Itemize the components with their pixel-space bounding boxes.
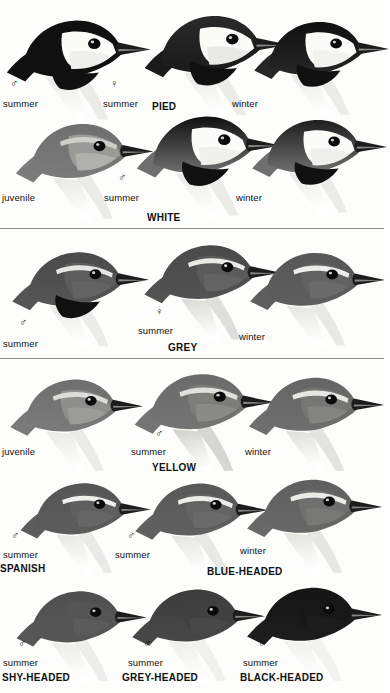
sex-symbol-yellow-male-summer: ♂ xyxy=(155,428,163,439)
bird-head-yellow-juvenile xyxy=(4,368,146,474)
sex-symbol-grey-female-summer: ♀ xyxy=(155,306,163,317)
caption-blueheaded-winter: winter xyxy=(240,545,266,556)
sex-symbol-white-male-summer: ♂ xyxy=(118,172,126,183)
sex-symbol-greyheaded-male-summer: ♂ xyxy=(143,638,151,649)
caption-yellow-winter: winter xyxy=(245,446,271,457)
species-label-grey-headed: GREY-HEADED xyxy=(122,672,198,683)
caption-yellow-juvenile: juvenile xyxy=(2,446,35,457)
rule-after-grey xyxy=(0,358,384,359)
sex-symbol-ashyheaded-male-summer: ♂ xyxy=(18,638,26,649)
caption-pied-male-summer: summer xyxy=(3,98,38,109)
bird-head-blueheaded-winter xyxy=(242,468,384,576)
caption-grey-female-summer: summer xyxy=(138,325,173,336)
bird-head-grey-male-summer xyxy=(8,240,150,350)
bird-head-yellow-winter xyxy=(244,366,386,474)
sex-symbol-spanish-male-summer: ♂ xyxy=(11,530,19,541)
species-label-white: WHITE xyxy=(147,212,180,223)
caption-white-male-summer: summer xyxy=(104,192,139,203)
caption-ashyheaded-male-summer: summer xyxy=(3,657,38,668)
sex-symbol-blueheaded-male-summer: ♂ xyxy=(127,530,135,541)
sex-symbol-pied-female-summer: ♀ xyxy=(110,78,118,89)
sex-symbol-grey-male-summer: ♂ xyxy=(19,317,27,328)
caption-blackheaded-male-summer: summer xyxy=(243,657,278,668)
caption-yellow-male-summer: summer xyxy=(131,446,166,457)
bird-head-white-winter xyxy=(248,106,388,218)
species-label-shy-headed: SHY-HEADED xyxy=(2,672,70,683)
caption-blueheaded-male-summer: summer xyxy=(115,549,150,560)
species-label-black-headed: BLACK-HEADED xyxy=(240,672,324,683)
rule-after-white xyxy=(0,228,384,229)
caption-white-juvenile: juvenile xyxy=(2,192,35,203)
caption-spanish-male-summer: summer xyxy=(3,549,38,560)
sex-symbol-blackheaded-male-summer: ♂ xyxy=(258,638,266,649)
species-label-spanish: SPANISH xyxy=(0,563,45,574)
sex-symbol-pied-male-summer: ♂ xyxy=(10,78,18,89)
species-label-pied: PIED xyxy=(152,101,176,112)
caption-grey-winter: winter xyxy=(239,331,265,342)
bird-head-grey-winter xyxy=(246,240,386,350)
caption-white-winter: winter xyxy=(236,192,262,203)
caption-grey-male-summer: summer xyxy=(3,338,38,349)
caption-greyheaded-male-summer: summer xyxy=(128,657,163,668)
species-label-grey: GREY xyxy=(168,342,197,353)
